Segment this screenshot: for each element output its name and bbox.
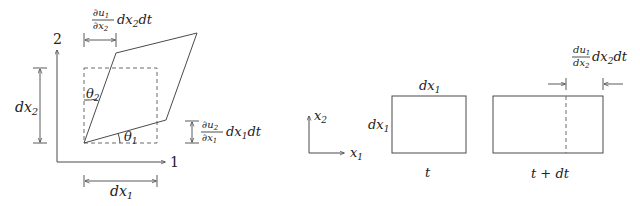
time-t-label: t [425,165,431,180]
stretch-dimension: du1 dx2 dx2dt [548,44,628,90]
deformed-parallelogram [84,33,197,143]
svg-text:dx1dt: dx1dt [226,124,262,141]
left-panel: 2 1 θ2 θ1 dx2 dx1 [15,7,262,201]
theta-1-label: θ1 [124,129,138,146]
time-t-plus-dt-label: t + dt [531,166,570,181]
dx1-label: dx1 [110,183,133,201]
svg-text:∂u1: ∂u1 [93,7,109,20]
top-shear-dimension: ∂u1 ∂x2 dx2dt [84,7,153,47]
right-shear-dimension: ∂u2 ∂x1 dx1dt [185,119,262,145]
svg-text:∂x2: ∂x2 [93,20,109,33]
stretch-label: du1 dx2 dx2dt [572,44,628,70]
dx1-dimension: dx1 [84,175,157,201]
strain-diagram: 2 1 θ2 θ1 dx2 dx1 [0,0,640,206]
element-at-t [392,96,466,153]
rect-left-dx1-label: dx1 [368,117,389,134]
theta-2-label: θ2 [86,86,100,103]
rect-top-dx1-label: dx1 [419,78,440,95]
undeformed-square [84,68,157,143]
top-shear-label: ∂u1 ∂x2 dx2dt [92,7,153,33]
axis-1-label: 1 [170,154,179,170]
svg-text:∂u2: ∂u2 [202,119,219,132]
svg-text:dx2: dx2 [573,57,590,70]
dx2-label: dx2 [15,99,38,117]
svg-text:∂x1: ∂x1 [202,132,217,145]
right-panel: x2 x1 dx1 dx1 t t + dt du1 dx2 dx2dt [309,44,628,181]
svg-text:du1: du1 [573,44,590,57]
right-shear-label: ∂u2 ∂x1 dx1dt [201,119,262,145]
svg-text:dx2dt: dx2dt [117,12,153,29]
x1-axis-label: x1 [350,145,363,162]
x2-axis-label: x2 [314,108,327,125]
svg-text:dx2dt: dx2dt [592,49,628,66]
dx2-dimension: dx2 [15,68,47,143]
element-at-t-plus-dt [493,96,603,153]
axis-2-label: 2 [53,31,62,47]
theta-1-arc [118,133,120,143]
